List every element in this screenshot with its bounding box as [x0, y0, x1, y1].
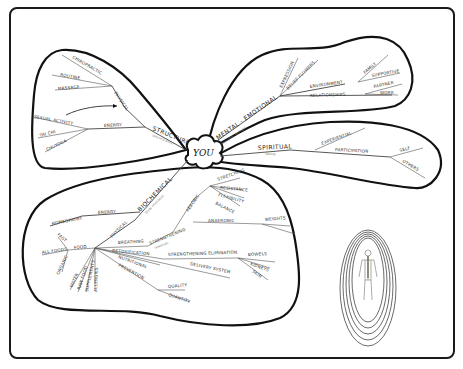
- svg-text:QUANTITY: QUANTITY: [168, 292, 192, 304]
- svg-text:ENERGY: ENERGY: [98, 209, 117, 215]
- svg-text:PHYSICAL: PHYSICAL: [113, 91, 130, 112]
- spiritual-label: SPIRITUAL: [258, 142, 293, 151]
- svg-text:EXPERIENTIAL: EXPERIENTIAL: [321, 130, 353, 146]
- svg-text:SUPPORTIVE: SUPPORTIVE: [371, 68, 400, 78]
- human-figure-icon: [359, 250, 377, 300]
- svg-text:PARTICIPATION: PARTICIPATION: [335, 147, 369, 154]
- biochemical-branch: BIOCHEMICAL (body chemistry) ENERGY HOME…: [41, 160, 295, 304]
- svg-text:QUALITY: QUALITY: [168, 282, 188, 289]
- center-label: YOU: [193, 148, 214, 158]
- svg-text:DETOXIFICATION: DETOXIFICATION: [112, 248, 150, 256]
- svg-text:PHYSICAL: PHYSICAL: [109, 219, 128, 238]
- svg-text:ALLERGIES: ALLERGIES: [93, 267, 99, 292]
- spiritual-branch: SPIRITUAL (being) EXPERIENTIAL PARTICIPA…: [220, 128, 425, 178]
- biochemical-label: BIOCHEMICAL: [136, 175, 174, 213]
- svg-text:MASSAGE: MASSAGE: [58, 84, 80, 91]
- svg-text:RELATIONSHIPS: RELATIONSHIPS: [310, 92, 346, 98]
- svg-text:BALANCE: BALANCE: [215, 200, 236, 214]
- svg-text:SEXUAL ACTIVITY: SEXUAL ACTIVITY: [34, 114, 74, 126]
- svg-text:FOOD: FOOD: [74, 244, 87, 250]
- mental-emotional-label: MENTAL - EMOTIONAL: [215, 93, 279, 141]
- svg-text:ANAEROBIC: ANAEROBIC: [208, 218, 235, 223]
- svg-text:SKIN: SKIN: [251, 269, 263, 279]
- human-aura-illustration: [340, 230, 396, 346]
- svg-text:BOWELS: BOWELS: [248, 251, 267, 257]
- svg-text:ENERGY: ENERGY: [104, 122, 123, 128]
- svg-text:DELIVERY SYSTEM: DELIVERY SYSTEM: [190, 261, 231, 274]
- svg-text:(being): (being): [265, 152, 276, 156]
- svg-text:BREATHING: BREATHING: [118, 239, 144, 245]
- svg-text:WEIGHTS: WEIGHTS: [265, 215, 287, 222]
- svg-text:CHI/YOGA: CHI/YOGA: [45, 138, 67, 152]
- structure-branch: STRUCTURE (physical body) PHYSICAL CHIRO…: [33, 55, 191, 152]
- svg-text:ALL FOODS: ALL FOODS: [41, 246, 67, 255]
- svg-text:WORK: WORK: [380, 90, 394, 95]
- structure-lobe: [32, 50, 186, 169]
- svg-text:AEROBIC: AEROBIC: [185, 193, 201, 212]
- spiritual-lobe: [210, 122, 441, 189]
- center-node-you: YOU: [186, 135, 223, 168]
- mind-map-canvas: YOU STRUCTURE (physical body) PHYSICAL C…: [0, 0, 463, 369]
- svg-text:STRENGTHENING ELIMINATION: STRENGTHENING ELIMINATION: [168, 250, 238, 257]
- svg-text:ROUTINE: ROUTINE: [60, 72, 81, 80]
- svg-text:ORGANIC: ORGANIC: [55, 254, 68, 275]
- svg-text:PARTNER: PARTNER: [373, 80, 394, 89]
- svg-text:HOMEOPATHY: HOMEOPATHY: [51, 216, 83, 226]
- svg-text:TAI CHI: TAI CHI: [38, 129, 56, 138]
- svg-text:RESISTANCE: RESISTANCE: [220, 185, 248, 192]
